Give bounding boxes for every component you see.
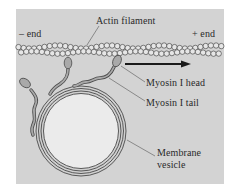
myosin-vesicle-diagram: Actin filament – end + end Myosin I head… [0,0,237,196]
minus-end-label: – end [19,28,41,39]
membrane-vesicle-label-line2: vesicle [157,159,185,170]
actin-filament-label: Actin filament [96,15,155,26]
myosin-tail-label: Myosin I tail [146,97,199,108]
plus-end-label: + end [192,28,215,39]
myosin-head-label: Myosin I head [146,77,205,88]
membrane-vesicle-label-line1: Membrane [157,147,201,158]
membrane-vesicle [36,86,126,176]
